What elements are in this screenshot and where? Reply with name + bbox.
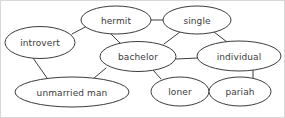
node-ellipse-hermit[interactable]	[81, 6, 151, 34]
node-ellipse-introvert[interactable]	[5, 27, 75, 59]
graph-edge-bachelor-individual	[176, 58, 198, 59]
node-ellipse-individual[interactable]	[197, 41, 281, 71]
graph-node-single[interactable]: single	[163, 6, 231, 34]
node-ellipse-pariah[interactable]	[209, 77, 271, 106]
graph-edge-bachelor-loner	[153, 70, 161, 79]
graph-edge-introvert-unmarried-man	[33, 58, 47, 78]
graph-node-individual[interactable]: individual	[197, 41, 281, 71]
node-ellipse-loner[interactable]	[151, 77, 209, 106]
graph-node-loner[interactable]: loner	[151, 77, 209, 106]
diagram-canvas: introverthermitsinglebachelorindividualu…	[0, 0, 285, 118]
node-ellipse-bachelor[interactable]	[100, 42, 176, 72]
node-layer: introverthermitsinglebachelorindividualu…	[5, 6, 281, 107]
graph-node-hermit[interactable]: hermit	[81, 6, 151, 34]
graph-edge-bachelor-unmarried-man	[93, 68, 106, 79]
graph-node-pariah[interactable]: pariah	[209, 77, 271, 106]
graph-edge-hermit-bachelor	[111, 34, 120, 43]
graph-node-bachelor[interactable]: bachelor	[100, 42, 176, 72]
graph-node-introvert[interactable]: introvert	[5, 27, 75, 59]
graph-edge-single-individual	[214, 32, 227, 42]
graph-edge-single-bachelor	[164, 32, 180, 44]
synonym-graph: introverthermitsinglebachelorindividualu…	[1, 1, 285, 118]
graph-node-unmarried-man[interactable]: unmarried man	[15, 77, 129, 107]
node-ellipse-single[interactable]	[163, 6, 231, 34]
node-ellipse-unmarried-man[interactable]	[15, 77, 129, 107]
